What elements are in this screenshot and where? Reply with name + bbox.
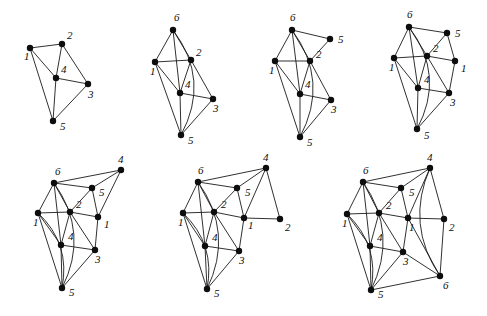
vertex-2[interactable] bbox=[188, 57, 194, 63]
vertex-label-4: 4 bbox=[263, 151, 269, 163]
vertex-label-6: 6 bbox=[198, 164, 204, 176]
vertex-2[interactable] bbox=[424, 53, 430, 59]
edge-n5b-n1b bbox=[447, 33, 455, 61]
vertex-1[interactable] bbox=[95, 214, 101, 220]
vertex-label-5: 5 bbox=[60, 120, 66, 132]
vertex-1[interactable] bbox=[452, 58, 458, 64]
edge-n2-n1b bbox=[427, 56, 455, 61]
vertex-label-3: 3 bbox=[212, 102, 219, 114]
edge-n3-n5 bbox=[62, 250, 95, 288]
vertex-4[interactable] bbox=[263, 165, 269, 171]
edge-n6-n1 bbox=[38, 183, 54, 213]
vertex-label-5: 5 bbox=[214, 287, 220, 299]
vertex-label-3: 3 bbox=[330, 103, 337, 115]
vertex-label-2: 2 bbox=[67, 29, 73, 41]
edge-n6-n1 bbox=[155, 30, 173, 62]
vertex-5[interactable] bbox=[444, 30, 450, 36]
vertex-6[interactable] bbox=[360, 179, 366, 185]
vertex-2[interactable] bbox=[441, 216, 447, 222]
vertex-5[interactable] bbox=[327, 36, 333, 42]
vertex-label-4: 4 bbox=[68, 230, 74, 242]
vertex-5[interactable] bbox=[297, 134, 303, 140]
vertex-label-1: 1 bbox=[248, 219, 254, 231]
vertex-label-4: 4 bbox=[305, 78, 311, 90]
edge-n6-n1 bbox=[394, 27, 409, 58]
vertex-2[interactable] bbox=[67, 209, 73, 215]
vertex-2[interactable] bbox=[211, 209, 217, 215]
vertex-label-5: 5 bbox=[455, 27, 461, 39]
vertex-4[interactable] bbox=[53, 75, 59, 81]
vertex-6[interactable] bbox=[289, 27, 295, 33]
edge-n4b-n2b bbox=[266, 168, 280, 219]
edge-n1-n2 bbox=[183, 212, 214, 213]
graph-1-edges bbox=[30, 44, 88, 121]
vertex-4[interactable] bbox=[118, 167, 124, 173]
vertex-label-4: 4 bbox=[377, 231, 383, 243]
graph-1: 12435 bbox=[24, 29, 94, 132]
edge-n6-n5b bbox=[198, 182, 237, 188]
edge-n6-n5b bbox=[363, 182, 401, 188]
vertex-2[interactable] bbox=[59, 41, 65, 47]
vertex-4[interactable] bbox=[202, 243, 208, 249]
edge-n5b-n1b bbox=[401, 188, 408, 218]
vertex-5[interactable] bbox=[234, 185, 240, 191]
vertex-4[interactable] bbox=[415, 85, 421, 91]
vertex-label-5: 5 bbox=[307, 136, 313, 148]
graph-7-edges bbox=[347, 168, 444, 290]
edge-n1b-n3 bbox=[239, 218, 244, 251]
vertex-label-6: 6 bbox=[363, 164, 369, 176]
edge-n1b-n3 bbox=[403, 218, 408, 252]
graph-4: 65121435 bbox=[389, 8, 467, 141]
edge-n4-n3 bbox=[61, 245, 95, 250]
vertex-4[interactable] bbox=[177, 90, 183, 96]
edge-n1-n2 bbox=[155, 60, 191, 62]
vertex-3[interactable] bbox=[85, 81, 91, 87]
vertex-2[interactable] bbox=[277, 216, 283, 222]
vertex-label-1: 1 bbox=[409, 221, 415, 233]
vertex-5[interactable] bbox=[414, 126, 420, 132]
vertex-label-4: 4 bbox=[118, 153, 124, 165]
edge-n3-n5 bbox=[53, 84, 88, 121]
edge-n4-n5 bbox=[53, 78, 56, 121]
vertex-label-5: 5 bbox=[69, 286, 75, 298]
vertex-label-5: 5 bbox=[409, 186, 415, 198]
vertex-6[interactable] bbox=[170, 27, 176, 33]
vertex-label-5: 5 bbox=[99, 186, 105, 198]
vertex-5[interactable] bbox=[398, 185, 404, 191]
vertex-2[interactable] bbox=[307, 58, 313, 64]
vertex-label-3: 3 bbox=[94, 253, 101, 265]
vertex-5[interactable] bbox=[178, 132, 184, 138]
vertex-5[interactable] bbox=[50, 118, 56, 124]
vertex-label-5: 5 bbox=[245, 186, 251, 198]
vertex-5[interactable] bbox=[89, 185, 95, 191]
edge-n5b-n1b bbox=[92, 188, 98, 217]
vertex-4[interactable] bbox=[58, 242, 64, 248]
edge-n5b-n1b bbox=[237, 188, 244, 218]
vertex-label-2: 2 bbox=[449, 221, 455, 233]
vertex-5[interactable] bbox=[59, 285, 65, 291]
vertex-6[interactable] bbox=[195, 179, 201, 185]
vertex-label-4: 4 bbox=[185, 78, 191, 90]
edge-n1-n2 bbox=[38, 212, 70, 213]
vertex-1[interactable] bbox=[241, 215, 247, 221]
edge-n2-n1b bbox=[70, 212, 98, 217]
vertex-label-3: 3 bbox=[449, 96, 456, 108]
vertex-4[interactable] bbox=[297, 91, 303, 97]
vertex-2[interactable] bbox=[376, 210, 382, 216]
graph-5: 465121435 bbox=[33, 153, 124, 298]
vertex-label-4: 4 bbox=[61, 63, 67, 75]
graph-6-nodes: 4651212435 bbox=[178, 151, 291, 299]
vertex-label-1: 1 bbox=[342, 217, 348, 229]
graph-3-edges bbox=[275, 30, 331, 137]
vertex-6[interactable] bbox=[406, 24, 412, 30]
graph-1-nodes: 12435 bbox=[24, 29, 94, 132]
vertex-4[interactable] bbox=[367, 243, 373, 249]
vertex-label-2: 2 bbox=[316, 48, 322, 60]
vertex-5[interactable] bbox=[204, 286, 210, 292]
edge-n4-n3 bbox=[370, 246, 403, 252]
vertex-5[interactable] bbox=[368, 287, 374, 293]
vertex-label-5: 5 bbox=[188, 134, 194, 146]
edge-n3-n6b bbox=[403, 252, 440, 276]
vertex-6[interactable] bbox=[51, 180, 57, 186]
vertex-4[interactable] bbox=[427, 165, 433, 171]
